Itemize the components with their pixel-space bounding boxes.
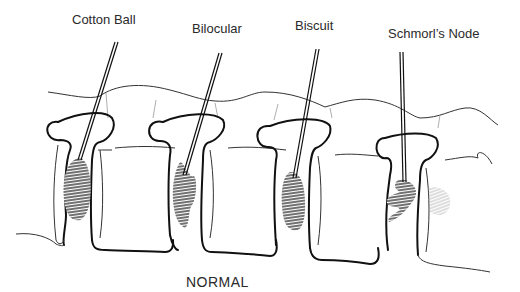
caption-normal: NORMAL [186,274,249,290]
label-schmorls-node: Schmorl’s Node [388,26,480,41]
label-cotton-ball: Cotton Ball [72,12,136,27]
spine-illustration [0,0,520,292]
label-biscuit: Biscuit [295,18,333,33]
label-bilocular: Bilocular [192,21,242,36]
discogram-diagram: Cotton Ball Bilocular Biscuit Schmorl’s … [0,0,520,292]
